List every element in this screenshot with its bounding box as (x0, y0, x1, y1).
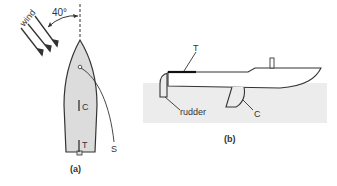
centre-label: C (82, 102, 89, 112)
wind-label: wind (17, 8, 37, 29)
rudder (160, 73, 168, 97)
tiller-label-b: T (193, 43, 199, 53)
rudder-label: rudder (180, 107, 206, 117)
centreboard-label: C (254, 109, 261, 119)
angle-label: 40° (52, 7, 67, 18)
figure-a-top-view: wind 40° C T S (a) (17, 4, 117, 174)
caption-b: (b) (224, 134, 236, 144)
hull-top (64, 40, 97, 152)
sheet-label: S (111, 144, 117, 154)
mast-stub (270, 58, 274, 68)
figure-b-side-view: T rudder C (b) (143, 43, 327, 144)
caption-a: (a) (70, 164, 81, 174)
tiller-leader (184, 52, 196, 71)
tiller-label-a: T (82, 140, 88, 150)
arc-arrowhead-icon (73, 14, 78, 18)
sailing-diagram: wind 40° C T S (a) T (0, 0, 337, 186)
